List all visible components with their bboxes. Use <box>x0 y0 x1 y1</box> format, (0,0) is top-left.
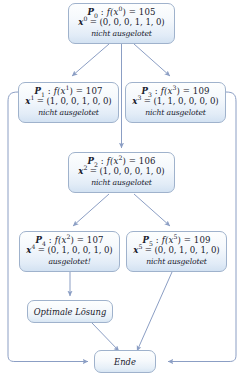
node-end[interactable]: Ende <box>94 350 156 373</box>
node-p1[interactable]: P1 : f(x1) = 107 x1 = (1, 0, 0, 1, 0, 0)… <box>18 82 119 123</box>
edge-p2-p5 <box>134 194 170 226</box>
end-label: Ende <box>114 357 136 367</box>
node-optimal-solution[interactable]: Optimale Lösung <box>27 300 113 323</box>
node-p5-status: nicht ausgelotet <box>127 257 226 266</box>
branch-and-bound-diagram: P0 : f(x0) = 105 x0 = (0, 0, 0, 1, 1, 0)… <box>0 0 243 380</box>
node-p3[interactable]: P3 : f(x3) = 109 x3 = (1, 1, 0, 0, 0, 0)… <box>125 82 226 123</box>
optimal-solution-label: Optimale Lösung <box>34 307 107 317</box>
node-p2[interactable]: P2 : f(x2) = 106 x2 = (1, 0, 0, 0, 1, 0)… <box>68 152 175 193</box>
edge-p0-p1 <box>72 44 109 76</box>
node-p4[interactable]: P4 : f(x2) = 107 x4 = (0, 1, 0, 0, 1, 0)… <box>19 231 120 272</box>
edge-p2-p4 <box>73 194 109 226</box>
node-p1-vector: x1 = (1, 0, 0, 1, 0, 0) <box>19 96 118 106</box>
node-p2-status: nicht ausgelotet <box>69 178 174 187</box>
node-p5[interactable]: P5 : f(x5) = 109 x5 = (0, 0, 1, 0, 1, 0)… <box>126 231 227 272</box>
edge-optimal-end <box>92 323 119 351</box>
node-p0-vector: x0 = (0, 0, 0, 1, 1, 0) <box>69 17 174 27</box>
edge-p3-end <box>168 92 236 362</box>
edge-p0-p3 <box>134 44 170 76</box>
node-p4-status: ausgelotet! <box>20 257 119 266</box>
node-p4-vector: x4 = (0, 1, 0, 0, 1, 0) <box>20 245 119 255</box>
node-p3-vector: x3 = (1, 1, 0, 0, 0, 0) <box>126 96 225 106</box>
node-p2-vector: x2 = (1, 0, 0, 0, 1, 0) <box>69 166 174 176</box>
node-p0[interactable]: P0 : f(x0) = 105 x0 = (0, 0, 0, 1, 1, 0)… <box>68 3 175 44</box>
edge-p5-end <box>137 272 172 351</box>
node-p3-status: nicht ausgelotet <box>126 108 225 117</box>
node-p0-status: nicht ausgelotet <box>69 29 174 38</box>
node-p1-status: nicht ausgelotet <box>19 108 118 117</box>
node-p5-vector: x5 = (0, 0, 1, 0, 1, 0) <box>127 245 226 255</box>
